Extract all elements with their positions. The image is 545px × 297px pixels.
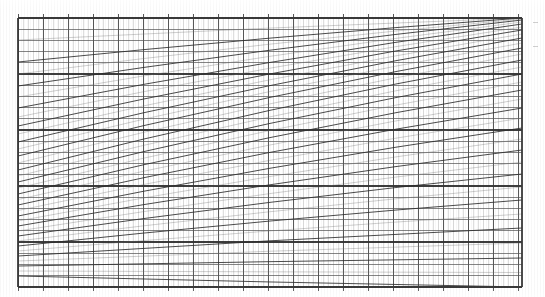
nomogram-chart bbox=[0, 0, 545, 297]
grid-chart-canvas bbox=[0, 0, 545, 297]
